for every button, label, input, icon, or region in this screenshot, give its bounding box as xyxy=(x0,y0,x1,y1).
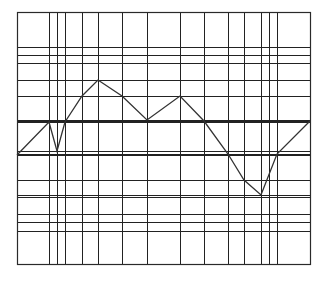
plot-frame xyxy=(18,13,311,265)
line-chart xyxy=(0,0,330,282)
data-line xyxy=(17,80,310,195)
